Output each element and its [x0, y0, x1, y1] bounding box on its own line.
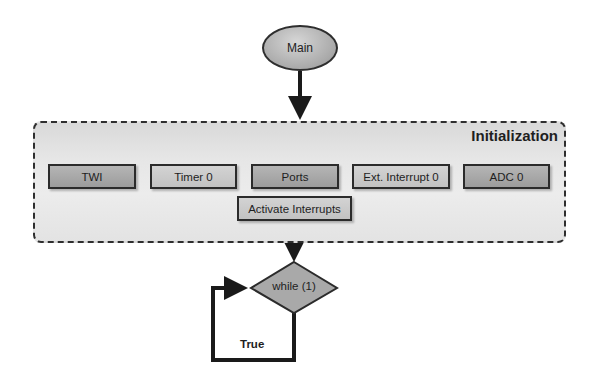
node-ext-interrupt-0: Ext. Interrupt 0: [352, 164, 450, 189]
group-title: Initialization: [471, 127, 558, 144]
node-adc0: ADC 0: [463, 164, 550, 189]
node-timer0: Timer 0: [150, 164, 237, 189]
node-label: Ext. Interrupt 0: [363, 171, 438, 183]
node-label: ADC 0: [490, 171, 524, 183]
decision-label: while (1): [251, 280, 337, 292]
start-node-label: Main: [287, 41, 313, 55]
node-label: Timer 0: [174, 171, 213, 183]
start-node-main: Main: [262, 25, 338, 71]
node-twi: TWI: [48, 164, 136, 189]
loop-true-label: True: [240, 338, 264, 350]
node-label: Activate Interrupts: [248, 203, 341, 215]
node-ports: Ports: [251, 164, 339, 189]
node-activate-interrupts: Activate Interrupts: [237, 196, 352, 221]
node-label: Ports: [282, 171, 309, 183]
node-label: TWI: [81, 171, 102, 183]
